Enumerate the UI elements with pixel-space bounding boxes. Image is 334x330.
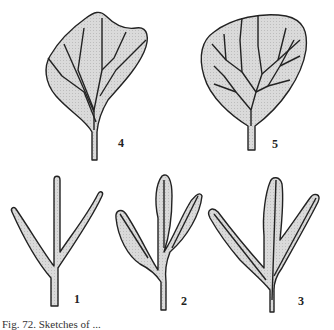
label-branch-3: 3 [298,294,304,309]
leaf-4-drawing [46,12,147,160]
branch-1-drawing [11,176,102,306]
branch-2-drawing [116,175,202,310]
label-branch-2: 2 [181,294,187,309]
leaf-5-drawing [201,15,306,150]
label-leaf-4: 4 [118,136,124,151]
label-branch-1: 1 [74,292,80,307]
branch-3-drawing [209,178,319,312]
figure-caption: Fig. 72. Sketches of ... [2,318,101,330]
label-leaf-5: 5 [272,137,278,152]
